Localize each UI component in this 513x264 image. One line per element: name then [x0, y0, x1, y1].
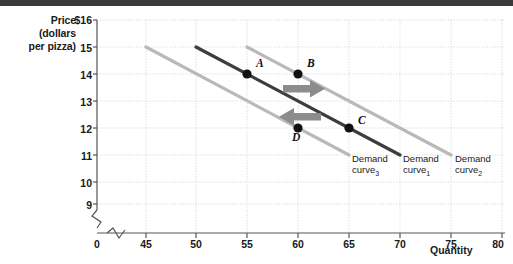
demand-curve-1-line — [196, 47, 400, 155]
data-point-D — [293, 123, 302, 132]
x-tick-marks — [146, 233, 502, 238]
demand-curve-chart — [0, 0, 513, 264]
vertical-gridlines — [146, 20, 502, 233]
data-point-B — [293, 69, 302, 78]
data-point-C — [344, 123, 353, 132]
horizontal-gridlines — [97, 20, 505, 204]
y-axis-break — [92, 210, 101, 228]
data-point-A — [242, 69, 251, 78]
